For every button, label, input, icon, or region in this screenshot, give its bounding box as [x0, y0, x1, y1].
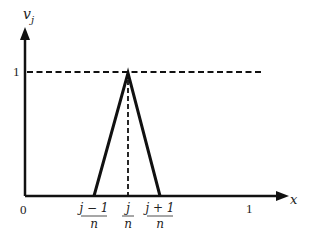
y-tick-one: 1 — [13, 64, 20, 79]
tick-right-denominator: n — [156, 217, 164, 231]
hat-function-diagram: vj 1 0 1 x j − 1 n j n j + 1 n — [0, 0, 313, 238]
tick-left-denominator: n — [90, 217, 98, 231]
tick-mid-denominator: n — [124, 217, 132, 231]
y-axis-label: vj — [23, 6, 34, 25]
x-axis-arrow-icon — [276, 191, 289, 201]
tick-right-numerator: j + 1 — [142, 201, 174, 215]
x-axis-label: x — [290, 192, 298, 207]
x-tick-one: 1 — [246, 201, 253, 216]
hat-function-triangle — [94, 73, 160, 196]
tick-mid-numerator: j — [123, 201, 130, 215]
tick-left-numerator: j − 1 — [76, 201, 108, 215]
origin-label: 0 — [20, 202, 27, 217]
y-axis-arrow-icon — [20, 27, 30, 40]
